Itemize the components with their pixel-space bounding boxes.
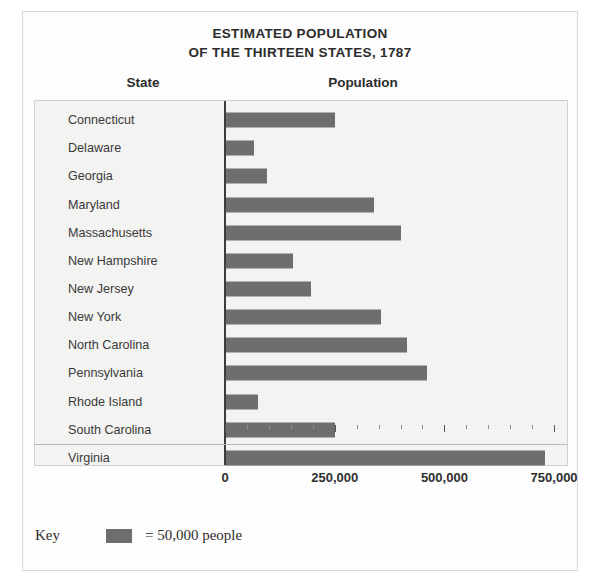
bar-row-label: Delaware <box>35 134 210 162</box>
chart-title-line-2: OF THE THIRTEEN STATES, 1787 <box>23 43 577 62</box>
key-label: Key <box>35 527 60 544</box>
bar-row-label: New York <box>35 303 210 331</box>
x-axis-ticks <box>35 425 567 445</box>
y-axis-line <box>224 101 226 465</box>
x-tick-major <box>225 425 226 432</box>
bar <box>225 310 381 325</box>
x-tick-label: 750,000 <box>531 470 578 485</box>
bar-row: New Hampshire <box>35 247 567 275</box>
key-description: = 50,000 people <box>145 527 242 544</box>
bar <box>225 450 545 465</box>
column-header-state: State <box>78 75 208 90</box>
x-tick-minor <box>291 425 292 429</box>
bar-row: Massachusetts <box>35 219 567 247</box>
bar-row: Maryland <box>35 190 567 218</box>
x-tick-minor <box>488 425 489 429</box>
bar <box>225 366 427 381</box>
bar-row: Virginia <box>35 444 567 472</box>
x-tick-major <box>335 425 336 432</box>
x-tick-minor <box>532 425 533 429</box>
bar-row: Pennsylvania <box>35 359 567 387</box>
x-tick-minor <box>269 425 270 429</box>
x-tick-label: 0 <box>221 470 228 485</box>
plot-area: ConnecticutDelawareGeorgiaMarylandMassac… <box>34 100 568 466</box>
bar-row: Connecticut <box>35 106 567 134</box>
bar-row: North Carolina <box>35 331 567 359</box>
bar <box>225 225 401 240</box>
chart-title: ESTIMATED POPULATION OF THE THIRTEEN STA… <box>23 24 577 62</box>
bar-row-label: North Carolina <box>35 331 210 359</box>
bar-row-label: Pennsylvania <box>35 359 210 387</box>
column-header-population: Population <box>273 75 453 90</box>
bar <box>225 281 311 296</box>
bar <box>225 141 254 156</box>
x-tick-minor <box>401 425 402 429</box>
bar-row-label: New Hampshire <box>35 247 210 275</box>
bar-row-label: Connecticut <box>35 106 210 134</box>
x-tick-minor <box>422 425 423 429</box>
chart-key: Key = 50,000 people <box>35 527 242 544</box>
bar <box>225 197 374 212</box>
bar-row-label: Virginia <box>35 444 210 472</box>
key-swatch-icon <box>106 529 132 543</box>
x-tick-minor <box>466 425 467 429</box>
x-tick-major <box>554 425 555 432</box>
bar <box>225 253 293 268</box>
bar <box>225 394 258 409</box>
x-tick-minor <box>357 425 358 429</box>
bar-row: Georgia <box>35 162 567 190</box>
bar <box>225 113 335 128</box>
x-tick-minor <box>313 425 314 429</box>
x-tick-major <box>444 425 445 432</box>
chart-figure: ESTIMATED POPULATION OF THE THIRTEEN STA… <box>22 11 578 571</box>
bar-row-label: New Jersey <box>35 275 210 303</box>
bar-row: Rhode Island <box>35 388 567 416</box>
x-tick-label: 250,000 <box>311 470 358 485</box>
chart-title-line-1: ESTIMATED POPULATION <box>23 24 577 43</box>
bar-rows: ConnecticutDelawareGeorgiaMarylandMassac… <box>35 101 567 465</box>
bar-row-label: Maryland <box>35 190 210 218</box>
bar-row: Delaware <box>35 134 567 162</box>
bar <box>225 338 407 353</box>
x-tick-minor <box>247 425 248 429</box>
bar <box>225 169 267 184</box>
x-axis-tick-labels: 0250,000500,000750,000 <box>34 470 568 492</box>
bar-row: New York <box>35 303 567 331</box>
bar-row-label: Georgia <box>35 162 210 190</box>
bar-row-label: Rhode Island <box>35 388 210 416</box>
x-tick-label: 500,000 <box>421 470 468 485</box>
x-tick-minor <box>510 425 511 429</box>
bar-row: New Jersey <box>35 275 567 303</box>
bar-row-label: Massachusetts <box>35 219 210 247</box>
x-tick-minor <box>379 425 380 429</box>
